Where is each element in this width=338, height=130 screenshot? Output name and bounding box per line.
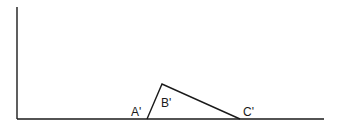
label-b-prime: B': [161, 96, 171, 110]
label-a-prime: A': [131, 105, 141, 119]
label-c-prime: C': [243, 105, 254, 119]
diagram-canvas: A' B' C': [0, 0, 338, 130]
